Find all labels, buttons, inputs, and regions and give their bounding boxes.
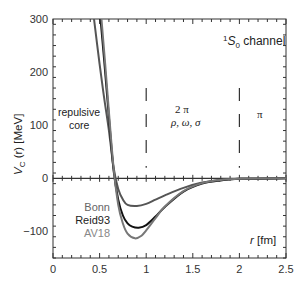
y-axis-title: VC (r) [MeV]	[12, 114, 27, 175]
y-tick-label: 100	[30, 119, 48, 131]
legend-av18: AV18	[84, 227, 110, 239]
repulsive-label: repulsive	[58, 106, 100, 118]
pi-label: π	[257, 108, 263, 120]
y-tick-label: 200	[30, 66, 48, 78]
potential-chart: 00.511.522.5−1000100200300 1S0 channel r…	[0, 0, 308, 288]
mesons-label: ρ, ω, σ	[170, 116, 201, 128]
y-tick-label: 0	[42, 172, 48, 184]
core-label: core	[69, 119, 90, 131]
x-axis-title: r [fm]	[250, 234, 276, 246]
x-tick-label: 1.5	[185, 263, 200, 275]
x-tick-label: 0	[50, 263, 56, 275]
reference-lines	[53, 88, 286, 178]
x-tick-label: 0.5	[92, 263, 107, 275]
series-lines	[94, 19, 286, 238]
legend-bonn: Bonn	[84, 201, 110, 213]
y-tick-label: 300	[30, 13, 48, 25]
x-tick-label: 1	[143, 263, 149, 275]
two-pi-label: 2 π	[175, 103, 189, 115]
channel-label: 1S0 channel	[223, 34, 285, 50]
y-tick-label: −100	[23, 225, 48, 237]
x-tick-label: 2.5	[278, 263, 293, 275]
legend-reid93: Reid93	[75, 214, 110, 226]
x-tick-label: 2	[236, 263, 242, 275]
